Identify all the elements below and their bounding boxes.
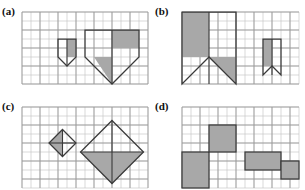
panel-label-b: (b)	[155, 5, 168, 17]
shape-small-block	[281, 161, 299, 179]
panel-d	[182, 107, 299, 188]
shape-rect	[209, 125, 236, 152]
panel-label-d: (d)	[155, 100, 168, 112]
shaded-region	[112, 30, 139, 48]
geometric-figure	[0, 0, 305, 190]
panel-label-c: (c)	[2, 100, 14, 112]
shaded-region	[67, 39, 76, 57]
shaded-region	[263, 39, 272, 66]
shape-tower-block	[209, 125, 236, 152]
shape-right-block	[245, 152, 281, 170]
panel-c	[22, 107, 148, 188]
shaded-region	[182, 12, 209, 57]
shape-rect	[182, 152, 209, 188]
panel-label-a: (a)	[2, 5, 15, 17]
shape-rect	[245, 152, 281, 170]
panel-b	[182, 12, 299, 84]
shape-rect	[281, 161, 299, 179]
shape-left-block	[182, 152, 209, 188]
panel-a	[22, 12, 148, 84]
